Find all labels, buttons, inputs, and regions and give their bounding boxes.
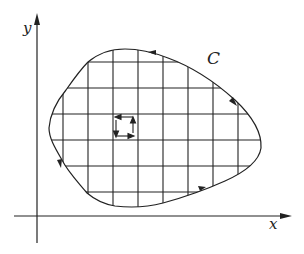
y-axis-label: y	[22, 19, 32, 37]
axes	[14, 13, 292, 243]
curve-c	[49, 49, 261, 207]
arrow-left-down-icon	[57, 159, 62, 168]
small-arrow-up-icon	[131, 117, 136, 123]
x-axis-arrow-icon	[280, 213, 292, 219]
small-arrow-left-icon	[115, 115, 121, 120]
curve-label: C	[207, 48, 220, 68]
small-arrow-right-icon	[128, 134, 134, 139]
small-square-circulation	[114, 115, 136, 139]
x-axis-label: x	[269, 215, 278, 233]
y-axis-arrow-icon	[34, 13, 40, 25]
grid	[40, 30, 270, 215]
greens-theorem-diagram: y x C	[0, 0, 304, 254]
curve-arrows	[57, 50, 237, 191]
